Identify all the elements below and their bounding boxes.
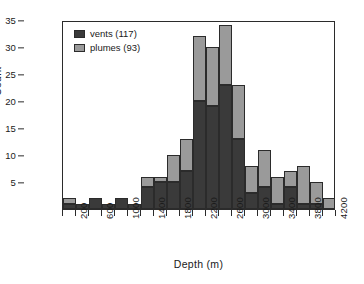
legend-item-label: plumes (93) — [90, 42, 140, 54]
bar-segment-plumes — [206, 47, 219, 106]
bar-segment-vents — [219, 85, 232, 209]
histogram-figure: 5101520253035Count vents (117)plumes (93… — [0, 0, 364, 284]
y-axis-tick — [18, 20, 24, 21]
histogram-bar — [258, 21, 271, 209]
bar-segment-plumes — [63, 198, 76, 203]
bar-segment-plumes — [271, 177, 284, 204]
bar-segment-plumes — [245, 166, 258, 193]
bar-segment-vents — [245, 193, 258, 209]
bar-segment-plumes — [193, 36, 206, 101]
bar-segment-vents — [297, 204, 310, 209]
x-axis-title: Depth (m) — [62, 258, 335, 270]
bar-segment-plumes — [258, 150, 271, 188]
bar-segment-plumes — [297, 166, 310, 204]
histogram-bar — [219, 21, 232, 209]
bar-segment-vents — [193, 101, 206, 209]
y-axis-tick — [18, 101, 24, 102]
histogram-bar — [167, 21, 180, 209]
x-axis-tick-label: 3400 — [287, 197, 297, 219]
legend: vents (117)plumes (93) — [74, 28, 140, 56]
bar-segment-plumes — [219, 25, 232, 84]
histogram-bar — [141, 21, 154, 209]
y-axis-tick-label: 15 — [0, 124, 16, 134]
x-axis-tick — [205, 210, 206, 216]
bar-segment-vents — [115, 198, 128, 209]
x-axis-tick-label: 3800 — [313, 197, 323, 219]
bar-segment-vents — [89, 198, 102, 209]
histogram-bar — [206, 21, 219, 209]
x-axis-tick-label: 1400 — [157, 197, 167, 219]
y-axis-tick — [18, 128, 24, 129]
x-axis-tick-label: 1000 — [131, 197, 141, 219]
histogram-bar — [193, 21, 206, 209]
histogram-bar — [154, 21, 167, 209]
legend-swatch-icon — [74, 44, 85, 52]
histogram-bar — [271, 21, 284, 209]
x-axis-tick — [101, 210, 102, 216]
x-axis-tick — [309, 210, 310, 216]
histogram-bar — [284, 21, 297, 209]
bar-segment-plumes — [232, 85, 245, 139]
x-axis-tick — [231, 210, 232, 216]
x-axis-tick — [179, 210, 180, 216]
histogram-bar — [310, 21, 323, 209]
x-axis-tick-label: 600 — [105, 203, 115, 219]
y-axis-tick-label: 30 — [0, 43, 16, 53]
x-axis-tick-label: 2200 — [209, 197, 219, 219]
x-axis-tick-label: 1800 — [183, 197, 193, 219]
bar-segment-vents — [167, 182, 180, 209]
histogram-bar — [245, 21, 258, 209]
y-axis-tick-label: 35 — [0, 16, 16, 26]
legend-swatch-icon — [74, 30, 85, 38]
y-axis-tick-label: 20 — [0, 97, 16, 107]
x-axis-tick — [335, 210, 336, 216]
histogram-bar — [323, 21, 335, 209]
y-axis-tick — [18, 47, 24, 48]
bar-segment-vents — [206, 106, 219, 209]
histogram-bar — [180, 21, 193, 209]
bar-segment-plumes — [154, 177, 167, 182]
x-axis-tick-label: 2600 — [235, 197, 245, 219]
x-axis: 2006001000140018002200260030003400380042… — [62, 210, 335, 284]
y-axis-tick — [18, 182, 24, 183]
y-axis-tick — [18, 155, 24, 156]
x-axis-tick — [62, 210, 63, 216]
legend-item-label: vents (117) — [90, 28, 137, 40]
x-axis-tick-label: 3000 — [261, 197, 271, 219]
histogram-bar — [297, 21, 310, 209]
legend-item: vents (117) — [74, 28, 140, 40]
x-axis-tick-label: 200 — [79, 203, 89, 219]
x-axis-tick — [283, 210, 284, 216]
y-axis-title: Count — [0, 66, 3, 96]
bar-segment-vents — [63, 204, 76, 209]
y-axis-tick — [18, 74, 24, 75]
legend-item: plumes (93) — [74, 42, 140, 54]
x-axis-tick-label: 4200 — [339, 197, 349, 219]
y-axis: 5101520253035Count — [0, 0, 62, 232]
x-axis-tick — [153, 210, 154, 216]
bar-segment-plumes — [180, 139, 193, 171]
bar-segment-plumes — [167, 155, 180, 182]
histogram-bar — [232, 21, 245, 209]
bar-segment-vents — [271, 204, 284, 209]
bar-segment-vents — [141, 187, 154, 209]
x-axis-tick — [127, 210, 128, 216]
bar-segment-plumes — [141, 177, 154, 188]
bar-segment-plumes — [323, 198, 335, 209]
x-axis-tick — [75, 210, 76, 216]
bar-segment-plumes — [284, 171, 297, 187]
y-axis-tick-label: 10 — [0, 151, 16, 161]
x-axis-tick — [257, 210, 258, 216]
y-axis-tick-label: 5 — [0, 178, 16, 188]
